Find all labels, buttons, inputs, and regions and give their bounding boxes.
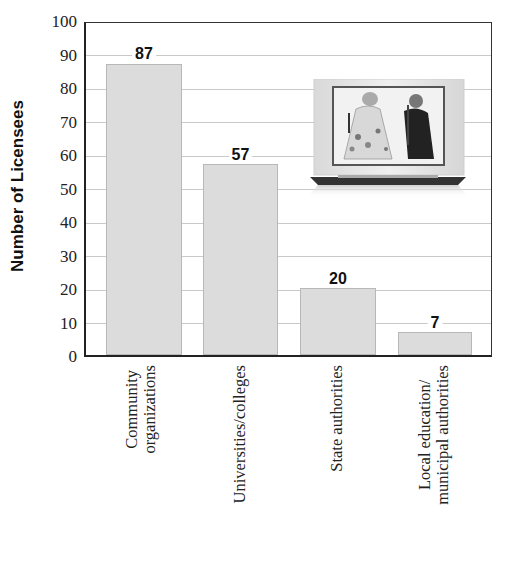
y-tick-0: 0 xyxy=(0,347,77,367)
y-tick-100: 100 xyxy=(0,12,77,32)
x-label-state-authorities: State authorities xyxy=(328,365,346,472)
bar-universities-colleges xyxy=(203,164,278,355)
y-tick-50: 50 xyxy=(0,180,77,200)
y-tick-60: 60 xyxy=(0,146,77,166)
x-label-line: organizations xyxy=(141,365,159,454)
television-photo xyxy=(308,79,468,197)
x-label-community-organizations: Community organizations xyxy=(123,365,159,454)
y-tick-90: 90 xyxy=(0,46,77,66)
y-tick-30: 30 xyxy=(0,247,77,267)
x-label-universities-colleges: Universities/colleges xyxy=(231,365,249,503)
x-label-line: Local education/ xyxy=(416,365,434,505)
bar-local-education-municipal xyxy=(398,332,472,356)
y-tick-10: 10 xyxy=(0,314,77,334)
data-label-state-authorities: 20 xyxy=(326,271,350,287)
data-label-community-organizations: 87 xyxy=(132,46,156,62)
bar-community-organizations xyxy=(106,64,182,356)
y-tick-80: 80 xyxy=(0,79,77,99)
x-label-line: municipal authorities xyxy=(434,365,452,505)
x-label-line: Community xyxy=(123,365,141,454)
y-tick-70: 70 xyxy=(0,113,77,133)
caption-cropped xyxy=(185,556,345,563)
x-label-line: Universities/colleges xyxy=(231,365,249,503)
y-tick-40: 40 xyxy=(0,213,77,233)
bar-state-authorities xyxy=(300,288,376,355)
x-label-line: State authorities xyxy=(328,365,346,472)
x-label-local-education-municipal: Local education/ municipal authorities xyxy=(416,365,452,505)
data-label-universities-colleges: 57 xyxy=(229,147,253,163)
data-label-local-education-municipal: 7 xyxy=(428,315,443,331)
plot-area: 87 57 20 7 xyxy=(84,22,492,357)
chart-title-cropped xyxy=(120,0,460,2)
y-tick-20: 20 xyxy=(0,280,77,300)
